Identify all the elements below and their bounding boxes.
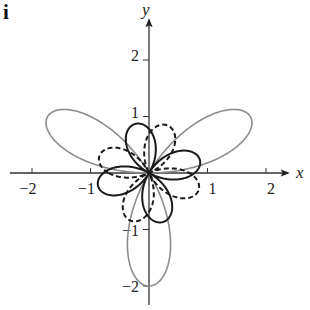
x-axis-label: x bbox=[295, 163, 304, 182]
polar-plot: x y −2−11221−1−2 bbox=[0, 0, 310, 310]
x-tick-label: 2 bbox=[267, 180, 275, 197]
y-tick-label: 1 bbox=[131, 104, 139, 121]
y-axis-label: y bbox=[140, 0, 150, 19]
y-tick-label: −2 bbox=[122, 278, 139, 295]
y-tick-label: −1 bbox=[122, 222, 139, 239]
y-tick-label: 2 bbox=[131, 47, 139, 64]
x-tick-label: −2 bbox=[19, 180, 36, 197]
x-tick-label: 1 bbox=[209, 180, 217, 197]
x-tick-label: −1 bbox=[78, 180, 95, 197]
